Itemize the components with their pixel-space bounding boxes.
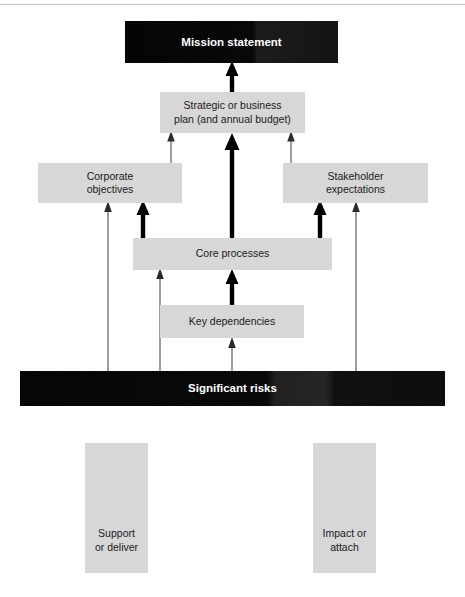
arrow-core-to-corporate-objectives [137,200,150,240]
node-stakeholder-expectations[interactable]: Stakeholder expectations [283,163,428,203]
diagram-canvas: Mission statement Strategic or business … [0,0,465,597]
arrow-key-dependencies-to-core [226,269,239,306]
node-mission-statement-label: Mission statement [125,35,338,50]
node-strategic-plan-label: Strategic or business plan (and annual b… [160,99,305,126]
top-divider-rule [0,4,465,5]
arrow-core-to-stakeholder-expectations [314,200,327,240]
node-corporate-objectives[interactable]: Corporate objectives [38,163,182,203]
arrow-risks-to-key-dependencies [228,337,236,371]
legend-support-label: Support or deliver [85,527,148,555]
arrow-risks-to-stakeholder-expectations [352,201,360,371]
arrow-core-to-strategic [225,133,240,238]
node-corporate-objectives-label: Corporate objectives [38,170,182,197]
legend-item-impact-or-attach: Impact or attach [313,443,376,573]
node-core-processes-label: Core processes [133,247,332,260]
arrow-corporate-objectives-to-strategic [167,131,175,164]
arrow-risks-to-corporate-objectives [104,201,112,371]
node-significant-risks[interactable]: Significant risks [20,371,445,406]
arrow-stakeholder-expectations-to-strategic [287,131,295,164]
node-mission-statement[interactable]: Mission statement [125,21,338,63]
node-strategic-plan[interactable]: Strategic or business plan (and annual b… [160,92,305,133]
node-stakeholder-expectations-label: Stakeholder expectations [283,170,428,197]
node-significant-risks-label: Significant risks [20,381,445,396]
node-key-dependencies[interactable]: Key dependencies [160,305,304,338]
arrow-layer [0,0,465,597]
node-core-processes[interactable]: Core processes [133,238,332,270]
arrow-strategic-to-mission [226,61,239,92]
node-key-dependencies-label: Key dependencies [160,315,304,328]
legend-impact-label: Impact or attach [313,527,376,555]
legend-item-support-or-deliver: Support or deliver [85,443,148,573]
